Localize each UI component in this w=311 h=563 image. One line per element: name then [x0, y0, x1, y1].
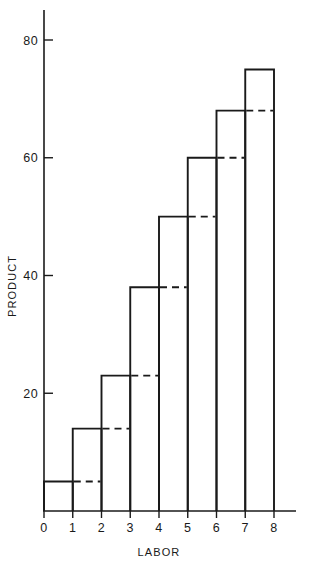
- x-axis-tick-label: 8: [270, 521, 277, 535]
- y-axis-title: PRODUCT: [6, 255, 18, 317]
- x-axis-tick-label: 1: [69, 521, 76, 535]
- x-axis-title: LABOR: [138, 546, 181, 558]
- chart-figure: 20406080012345678 LABORPRODUCT: [0, 0, 311, 563]
- tick-labels-layer: 20406080012345678: [23, 34, 277, 536]
- y-axis-tick-label: 40: [23, 269, 38, 283]
- x-axis-tick-label: 6: [213, 521, 220, 535]
- x-axis-tick-label: 0: [40, 521, 47, 535]
- x-axis-tick-label: 7: [242, 521, 249, 535]
- product-labor-step-chart: 20406080012345678 LABORPRODUCT: [0, 0, 311, 563]
- x-axis-tick-label: 2: [98, 521, 105, 535]
- x-axis-tick-label: 5: [184, 521, 191, 535]
- bar-8: [245, 69, 274, 511]
- bar-2: [73, 429, 102, 511]
- bars-layer: [44, 69, 274, 511]
- x-axis-tick-label: 3: [127, 521, 134, 535]
- y-axis-tick-label: 60: [23, 151, 38, 165]
- dashed-carry-layer: [74, 111, 273, 482]
- bar-4: [130, 287, 159, 511]
- bar-6: [188, 158, 217, 511]
- axes-layer: [43, 10, 296, 518]
- y-axis-tick-label: 80: [23, 34, 38, 48]
- bar-1: [44, 482, 73, 511]
- axis-titles-layer: LABORPRODUCT: [6, 255, 180, 558]
- x-axis-tick-label: 4: [155, 521, 162, 535]
- bar-3: [102, 376, 131, 511]
- bar-5: [159, 217, 188, 511]
- bar-7: [217, 111, 246, 511]
- y-axis-tick-label: 20: [23, 387, 38, 401]
